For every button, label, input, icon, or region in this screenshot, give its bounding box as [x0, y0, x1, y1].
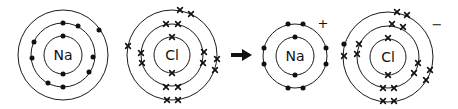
na-ion-charge: + [318, 16, 329, 31]
chloride-ion: Cl − [341, 10, 442, 104]
ionic-bonding-diagram: Na Cl [0, 0, 458, 109]
cl-symbol: Cl [165, 47, 179, 63]
cl-ion-symbol: Cl [381, 49, 395, 65]
cl-ion-charge: − [432, 17, 443, 32]
na-symbol: Na [53, 47, 72, 63]
reaction-arrow [231, 49, 252, 61]
chlorine-atom: Cl [126, 8, 220, 103]
transferred-electron [341, 41, 346, 46]
sodium-atom: Na [18, 10, 108, 100]
sodium-ion: Na + [262, 16, 329, 91]
na-ion-symbol: Na [285, 48, 304, 64]
